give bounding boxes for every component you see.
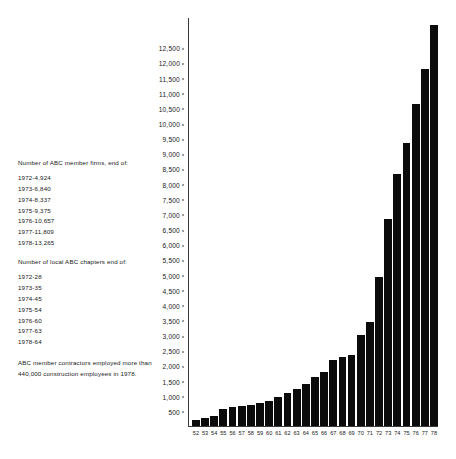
y-axis-tick-mark [182,351,185,352]
y-axis-tick-label: 500 [0,408,184,415]
y-axis-tick-mark [182,412,185,413]
bar [265,401,273,426]
y-axis-tick-mark [182,245,185,246]
y-axis-tick-mark [182,397,185,398]
y-axis-tick-mark [182,94,185,95]
x-axis-tick-label: 70 [357,430,365,442]
x-axis-tick-label: 62 [284,430,292,442]
y-axis-tick-label: 3,000 [0,333,184,340]
y-axis-tick-label: 11,000 [0,90,184,97]
x-axis-tick-label: 69 [348,430,356,442]
bar-series [189,18,438,426]
bar [238,406,246,426]
y-axis-tick-mark [182,306,185,307]
y-axis-tick-label: 9,500 [0,136,184,143]
y-axis-tick-mark [182,291,185,292]
y-axis-tick-mark [182,63,185,64]
y-axis-tick-label: 5,000 [0,272,184,279]
x-axis-tick-label: 66 [320,430,328,442]
y-axis-tick-mark [182,366,185,367]
y-axis-tick-mark [182,321,185,322]
x-axis-tick-label: 52 [192,430,200,442]
bar [274,397,282,426]
bar [339,357,347,426]
x-axis-tick-label: 60 [265,430,273,442]
x-axis-labels: 5253545556575859606162636465666768697071… [189,430,438,442]
y-axis-tick-label: 4,500 [0,287,184,294]
x-axis-tick-label: 72 [375,430,383,442]
bar [384,219,392,426]
y-axis-tick-mark [182,215,185,216]
x-axis-tick-label: 63 [293,430,301,442]
y-axis-tick-mark [182,200,185,201]
y-axis-tick-label: 12,500 [0,45,184,52]
y-axis-tick-label: 8,000 [0,181,184,188]
y-axis-tick-label: 1,500 [0,378,184,385]
x-axis-tick-label: 67 [329,430,337,442]
bar [192,420,200,426]
x-axis-tick-label: 54 [210,430,218,442]
y-axis-tick-mark [182,124,185,125]
bar [320,372,328,426]
y-axis-tick-label: 1,000 [0,393,184,400]
y-axis-tick-label: 10,000 [0,121,184,128]
bar [247,405,255,426]
plot-area [188,18,438,427]
y-axis-tick-mark [182,48,185,49]
x-axis-tick-label: 64 [302,430,310,442]
bar [329,360,337,426]
x-axis-tick-label: 53 [201,430,209,442]
y-axis-tick-label: 6,500 [0,227,184,234]
bar [366,322,374,426]
bar [256,403,264,426]
y-axis-tick-label: 4,000 [0,302,184,309]
bar [219,409,227,426]
y-axis-tick-mark [182,109,185,110]
y-axis-tick-label: 5,500 [0,257,184,264]
y-axis-tick-mark [182,154,185,155]
x-axis-tick-label: 58 [247,430,255,442]
y-axis-tick-mark [182,336,185,337]
bar [210,416,218,426]
bar [229,407,237,426]
y-axis-tick-label: 3,500 [0,317,184,324]
x-axis-tick-label: 56 [229,430,237,442]
bar [375,277,383,426]
x-axis-tick-label: 68 [339,430,347,442]
bar [348,355,356,426]
y-axis-tick-label: 2,500 [0,348,184,355]
x-axis-tick-label: 57 [238,430,246,442]
y-axis-tick-mark [182,79,185,80]
y-axis-tick-label: 7,500 [0,196,184,203]
y-axis-tick-label: 8,500 [0,166,184,173]
y-axis-tick-mark [182,276,185,277]
y-axis-tick-mark [182,230,185,231]
x-axis-tick-label: 61 [274,430,282,442]
x-axis-tick-label: 75 [403,430,411,442]
x-axis-tick-label: 65 [311,430,319,442]
y-axis-labels: 12,50012,00011,50011,00010,50010,0009,50… [0,18,184,427]
x-axis-tick-label: 71 [366,430,374,442]
bar [393,174,401,426]
bar [293,389,301,426]
x-axis-tick-label: 76 [412,430,420,442]
y-axis-tick-label: 12,000 [0,60,184,67]
x-axis-tick-label: 74 [393,430,401,442]
x-axis-tick-label: 78 [430,430,438,442]
bar [357,335,365,426]
y-axis-tick-label: 2,000 [0,363,184,370]
y-axis-tick-label: 6,000 [0,242,184,249]
x-axis-tick-label: 55 [219,430,227,442]
y-axis-tick-label: 11,500 [0,75,184,82]
x-axis-tick-label: 73 [384,430,392,442]
y-axis-tick-mark [182,139,185,140]
bar [201,418,209,426]
y-axis-tick-mark [182,260,185,261]
y-axis-tick-label: 10,500 [0,105,184,112]
bar [311,377,319,426]
x-axis-tick-label: 77 [421,430,429,442]
x-axis-line [188,426,438,427]
bar [430,25,438,426]
bar [302,384,310,426]
y-axis-tick-mark [182,185,185,186]
